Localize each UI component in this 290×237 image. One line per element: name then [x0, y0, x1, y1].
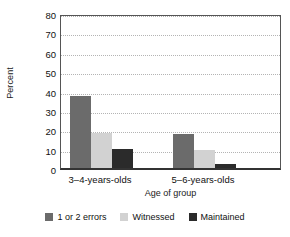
bar-chart-figure: Percent 01020304050607080 3–4-years-olds…: [0, 0, 290, 237]
y-tick-label: 60: [20, 48, 56, 59]
x-axis-title: Age of group: [60, 188, 281, 198]
y-axis-tick-labels: 01020304050607080: [16, 15, 56, 170]
bar: [70, 96, 91, 168]
bar-series-container: [61, 16, 280, 168]
legend-label: 1 or 2 errors: [57, 212, 106, 222]
bar: [91, 133, 112, 168]
y-tick-label: 0: [20, 165, 56, 176]
legend-label: Witnessed: [132, 212, 174, 222]
x-tick-label: 3–4-years-olds: [69, 174, 132, 185]
bar: [215, 164, 236, 168]
bar: [194, 150, 215, 168]
chart-legend: 1 or 2 errorsWitnessedMaintained: [0, 212, 290, 222]
legend-label: Maintained: [201, 212, 245, 222]
y-tick-label: 50: [20, 68, 56, 79]
legend-swatch-icon: [120, 213, 128, 221]
y-tick-label: 30: [20, 106, 56, 117]
x-tick-label: 5–6-years-olds: [172, 174, 235, 185]
bar: [112, 149, 133, 168]
y-tick-label: 10: [20, 145, 56, 156]
y-tick-label: 70: [20, 29, 56, 40]
y-tick-label: 80: [20, 10, 56, 21]
legend-item[interactable]: 1 or 2 errors: [45, 212, 106, 222]
bar: [173, 134, 194, 168]
y-tick-label: 40: [20, 87, 56, 98]
legend-item[interactable]: Maintained: [189, 212, 245, 222]
legend-swatch-icon: [45, 213, 53, 221]
y-tick-label: 20: [20, 126, 56, 137]
plot-area: [60, 15, 281, 170]
y-axis-title: Percent: [5, 51, 15, 115]
legend-swatch-icon: [189, 213, 197, 221]
legend-item[interactable]: Witnessed: [120, 212, 174, 222]
